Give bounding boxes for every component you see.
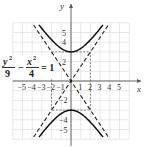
svg-text:y: y: [2, 56, 8, 67]
y-tick-label: 4: [62, 38, 66, 47]
svg-text:9: 9: [5, 68, 10, 79]
x-axis-label: x: [136, 84, 141, 94]
equation-label: y 2 9 − x 2 4 = 1: [1, 55, 54, 79]
y-axis-label: y: [59, 1, 64, 11]
y-tick-label: −4: [59, 116, 68, 125]
y-tick-label: 5: [62, 29, 66, 38]
y-tick-label: 2: [62, 58, 66, 67]
y-tick-label: −5: [59, 126, 68, 135]
tick-labels: −5−4−3−2−112345542−2−4−5: [18, 29, 122, 135]
svg-text:= 1: = 1: [41, 62, 54, 73]
x-tick-label: −4: [27, 83, 36, 92]
x-tick-label: 1: [78, 83, 82, 92]
hyperbola-graph: −5−4−3−2−112345542−2−4−5 y x y 2 9 − x 2…: [0, 0, 145, 147]
svg-text:2: 2: [33, 55, 36, 61]
x-tick-label: −5: [18, 83, 27, 92]
x-tick-label: 3: [98, 83, 102, 92]
y-tick-label: −2: [59, 96, 68, 105]
svg-text:−: −: [18, 62, 24, 73]
svg-text:4: 4: [29, 68, 34, 79]
x-tick-label: −1: [56, 83, 65, 92]
x-tick-label: 2: [88, 83, 92, 92]
x-tick-label: −3: [37, 83, 46, 92]
x-tick-label: −2: [47, 83, 56, 92]
svg-text:x: x: [26, 56, 32, 67]
svg-text:2: 2: [9, 55, 12, 61]
x-tick-label: 5: [117, 83, 121, 92]
x-tick-label: 4: [107, 83, 111, 92]
